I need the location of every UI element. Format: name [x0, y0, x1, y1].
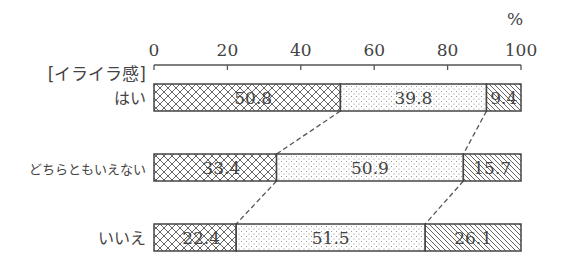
data-label: 50.9 [351, 158, 389, 178]
category-label: はい [114, 89, 146, 108]
data-label: 51.5 [312, 228, 350, 248]
connector-line [277, 111, 341, 154]
connector-line [425, 181, 463, 224]
unit-label: % [507, 9, 523, 29]
category-labels: [イライラ感]はいどちらともいえないいいえ [29, 64, 146, 248]
connector-line [463, 111, 486, 154]
category-label: どちらともいえない [29, 162, 146, 177]
data-label: 22.4 [182, 228, 220, 248]
group-title: [イライラ感] [48, 64, 146, 84]
stacked-bar-chart: 020406080100% [イライラ感]はいどちらともいえないいいえ 50.8… [0, 0, 566, 271]
data-label: 15.7 [473, 158, 511, 178]
data-label: 26.1 [454, 228, 492, 248]
x-tick-label: 20 [217, 40, 239, 60]
connector-line [236, 181, 276, 224]
x-tick-label: 0 [149, 40, 160, 60]
data-label: 9.4 [490, 88, 517, 108]
data-label: 39.8 [395, 88, 433, 108]
x-tick-label: 40 [290, 40, 312, 60]
data-label: 50.8 [234, 88, 272, 108]
data-label: 33.4 [202, 158, 240, 178]
x-tick-label: 100 [505, 40, 537, 60]
x-tick-label: 80 [437, 40, 459, 60]
category-label: いいえ [98, 229, 146, 248]
bars: 50.839.89.433.450.915.722.451.526.1 [154, 84, 521, 251]
x-tick-label: 60 [363, 40, 385, 60]
x-axis: 020406080100% [149, 9, 538, 70]
